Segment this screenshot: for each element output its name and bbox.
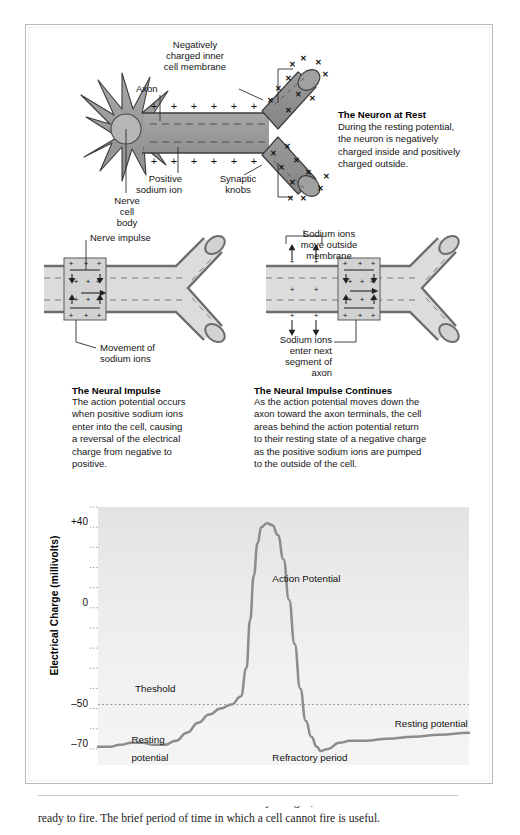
label-synaptic-knobs: Synaptic knobs [212, 173, 264, 195]
svg-text:✕: ✕ [278, 163, 285, 172]
svg-text:✕: ✕ [295, 90, 302, 99]
svg-text:+: + [69, 311, 74, 320]
svg-text:+: + [86, 277, 91, 286]
svg-text:+: + [231, 100, 237, 112]
chart-annotation-3: potential [131, 752, 168, 763]
page-rule [38, 795, 458, 796]
label-nerve-impulse: Nerve impulse [90, 232, 151, 243]
depolarized-segment-box: +++ +++ +++ +++ [64, 258, 106, 320]
svg-text:+: + [151, 100, 157, 112]
caption-body-neural-impulse: The action potential occurs when positiv… [72, 396, 247, 471]
svg-text:+: + [290, 311, 295, 320]
svg-text:✕: ✕ [287, 194, 294, 203]
charge-marks-bottom: +++ +++ [151, 155, 257, 167]
svg-text:✕: ✕ [289, 178, 296, 187]
svg-text:+: + [231, 155, 237, 167]
chart-minor-ticks [90, 507, 99, 749]
chart-annotation-5: Resting potential [395, 718, 468, 729]
chart-y-tick-1: 0 [54, 597, 88, 608]
caption-neural-impulse-continues: The Neural Impulse Continues As the acti… [254, 385, 482, 471]
svg-text:+: + [191, 100, 197, 112]
active-segment-box: +++ +++ +++ +++ [338, 258, 380, 320]
label-sodium-ions-move-outside-membrane: Sodium ions move outside membrane [280, 228, 378, 261]
svg-text:+: + [211, 100, 217, 112]
svg-text:✕: ✕ [317, 184, 324, 193]
caption-body-neural-impulse-continues: As the action potential moves down the a… [254, 396, 482, 471]
svg-text:+: + [358, 311, 363, 320]
svg-text:+: + [97, 259, 102, 268]
svg-text:+: + [191, 155, 197, 167]
svg-text:+: + [360, 295, 365, 304]
chart-annotation-4: Refractory period [272, 752, 347, 763]
svg-text:+: + [171, 100, 177, 112]
svg-text:✕: ✕ [275, 84, 282, 93]
figure-frame: +++ +++ +++ +++ ✕✕✕ ✕✕✕ ✕✕✕ ✕✕✕ ✕✕✕ ✕✕✕ … [25, 24, 493, 784]
svg-text:+: + [343, 311, 348, 320]
label-nerve-cell-body: Nerve cell body [100, 195, 154, 228]
panel-neural-impulse: +++ +++ +++ +++ Nerve [26, 230, 260, 370]
caption-title-neural-impulse: The Neural Impulse [72, 385, 247, 396]
svg-text:+: + [171, 155, 177, 167]
svg-text:+: + [251, 100, 257, 112]
svg-text:✕: ✕ [267, 96, 274, 105]
svg-text:+: + [290, 285, 295, 294]
svg-text:+: + [251, 155, 257, 167]
label-negatively-charged-inner-cell-membrane: Negatively charged inner cell membrane [140, 39, 250, 72]
axon-shaft-shape [142, 113, 270, 153]
svg-text:✕: ✕ [285, 106, 292, 115]
label-movement-of-sodium-ions: Movement of sodium ions [100, 342, 184, 364]
svg-text:✕: ✕ [293, 156, 300, 165]
svg-text:+: + [86, 295, 91, 304]
svg-text:✕: ✕ [300, 54, 307, 63]
action-potential-chart: Electrical Charge (millivolts) +400–50–7… [26, 495, 494, 780]
svg-text:+: + [360, 277, 365, 286]
svg-text:✕: ✕ [322, 70, 329, 79]
svg-text:+: + [151, 155, 157, 167]
page-text-line-2: ready to fire. The brief period of time … [38, 811, 490, 828]
caption-body-neuron-at-rest: During the resting potential, the neuron… [338, 121, 488, 171]
svg-text:✕: ✕ [305, 168, 312, 177]
chart-y-tick-2: –50 [54, 698, 88, 709]
svg-text:+: + [314, 285, 319, 294]
panel-neural-impulse-continues: ++ ++ ++ +++ [260, 230, 494, 370]
svg-text:✕: ✕ [309, 94, 316, 103]
svg-text:✕: ✕ [284, 142, 291, 151]
svg-text:✕: ✕ [300, 194, 307, 203]
panel-neuron-at-rest: +++ +++ +++ +++ ✕✕✕ ✕✕✕ ✕✕✕ ✕✕✕ ✕✕✕ ✕✕✕ … [26, 25, 494, 230]
svg-text:+: + [371, 311, 376, 320]
chart-annotation-0: Action Potential [272, 573, 340, 584]
caption-title-neuron-at-rest: The Neuron at Rest [338, 109, 426, 120]
chart-y-tick-3: –70 [54, 738, 88, 749]
svg-text:✕: ✕ [289, 60, 296, 69]
svg-text:+: + [69, 259, 74, 268]
svg-text:+: + [314, 311, 319, 320]
chart-y-tick-0: +40 [54, 516, 88, 527]
svg-text:+: + [84, 311, 89, 320]
chart-curve-layer [26, 495, 494, 780]
svg-text:✕: ✕ [323, 172, 330, 181]
label-axon: Axon [136, 83, 158, 94]
page-body-text-clipped: ions and a balance once more. When a cel… [38, 806, 490, 835]
svg-text:✕: ✕ [315, 58, 322, 67]
svg-text:✕: ✕ [285, 74, 292, 83]
label-positive-sodium-ion: Positive sodium ion [124, 173, 182, 195]
chart-annotation-1: Theshold [135, 683, 175, 694]
charge-marks-top: +++ +++ [151, 100, 257, 112]
svg-text:✕: ✕ [270, 149, 277, 158]
caption-neural-impulse: The Neural Impulse The action potential … [72, 385, 247, 471]
svg-text:+: + [97, 311, 102, 320]
label-sodium-ions-enter-next-segment: Sodium ions enter next segment of axon [252, 334, 332, 378]
chart-annotation-2: Resting [131, 734, 164, 745]
svg-text:+: + [211, 155, 217, 167]
caption-title-neural-impulse-continues: The Neural Impulse Continues [254, 385, 482, 396]
